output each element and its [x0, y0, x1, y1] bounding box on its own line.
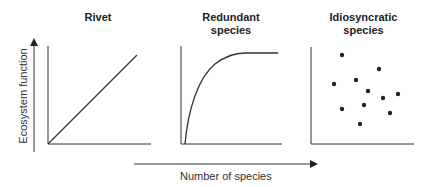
scatter-points	[332, 53, 400, 126]
diagram-canvas	[0, 0, 430, 187]
redundant-curve	[185, 53, 278, 144]
panel-rivet	[48, 46, 151, 144]
panel-idiosyncratic	[311, 47, 414, 144]
rivet-line	[48, 55, 137, 144]
panel-redundant	[181, 46, 282, 144]
